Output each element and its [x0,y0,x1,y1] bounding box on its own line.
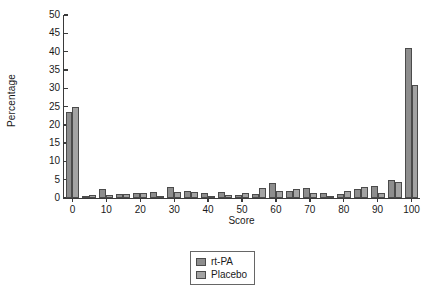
bar-chart-figure: Percentage 05101520253035404550 01020304… [0,0,447,290]
y-axis-tick-label: 10 [49,156,64,166]
x-axis-tick-mark [343,198,344,202]
bar-placebo-45 [225,195,232,198]
y-axis-title: Percentage [4,0,20,200]
legend-item-rt-pa: rt-PA [196,255,247,268]
bar-rt-pa-5 [82,196,89,198]
y-axis-tick-label: 40 [49,47,64,57]
x-axis-tick-mark [72,198,73,202]
bar-placebo-65 [293,189,300,198]
y-axis-title-text: Percentage [7,73,18,126]
y-axis-tick-label: 20 [49,120,64,130]
x-axis-tick-mark [241,198,242,202]
bar-rt-pa-85 [354,189,361,198]
x-axis-tick-label: 90 [372,205,383,215]
y-axis-tick-mark [64,51,68,52]
bar-rt-pa-65 [286,191,293,198]
bar-rt-pa-90 [371,186,378,198]
x-axis-tick-mark [106,198,107,202]
y-axis-tick-mark [64,88,68,89]
bar-placebo-90 [378,193,385,198]
bar-rt-pa-75 [320,193,327,198]
bar-rt-pa-30 [167,187,174,198]
bar-rt-pa-100 [405,48,412,198]
plot-area: 05101520253035404550 0102030405060708090… [63,15,420,199]
y-axis-tick-label: 30 [49,83,64,93]
x-axis-tick-label: 40 [203,205,214,215]
y-axis-tick-mark [64,106,68,107]
bar-rt-pa-20 [133,193,140,198]
bar-placebo-10 [106,195,113,198]
bar-placebo-5 [89,195,96,198]
legend-swatch-icon [196,258,206,266]
legend-swatch-icon [196,271,206,279]
x-axis-tick-mark [140,198,141,202]
x-axis-tick-mark [377,198,378,202]
bar-placebo-50 [242,193,249,198]
y-axis-tick-label: 15 [49,138,64,148]
bar-rt-pa-0 [66,112,73,198]
bar-rt-pa-55 [252,194,259,198]
bar-placebo-15 [123,194,130,198]
x-axis-tick-mark [275,198,276,202]
bar-placebo-70 [310,193,317,198]
bar-rt-pa-40 [201,193,208,198]
bar-placebo-85 [361,187,368,198]
bar-placebo-35 [191,192,198,198]
bar-placebo-95 [395,182,402,198]
x-axis-tick-mark [174,198,175,202]
x-axis-tick-mark [309,198,310,202]
bar-placebo-40 [208,196,215,198]
x-axis-tick-label: 10 [101,205,112,215]
x-axis-tick-mark [411,198,412,202]
bar-rt-pa-80 [337,194,344,198]
y-axis-tick-label: 50 [49,10,64,20]
x-axis-tick-mark [207,198,208,202]
y-axis-tick-mark [64,14,68,15]
legend-item-label: Placebo [211,269,247,280]
x-axis-tick-label: 100 [403,205,420,215]
bar-rt-pa-15 [116,194,123,198]
bar-placebo-20 [140,193,147,198]
bar-placebo-75 [327,196,334,198]
x-axis-tick-label: 20 [135,205,146,215]
x-axis-tick-label: 30 [169,205,180,215]
bar-placebo-60 [276,191,283,198]
bar-rt-pa-35 [184,191,191,198]
y-axis-tick-label: 5 [54,175,64,185]
bar-rt-pa-95 [388,180,395,198]
x-axis-tick-label: 70 [304,205,315,215]
bar-rt-pa-70 [303,188,310,198]
y-axis-tick-mark [64,69,68,70]
y-axis-tick-label: 45 [49,28,64,38]
chart-legend: rt-PAPlacebo [190,251,255,285]
x-axis-tick-label: 0 [70,205,76,215]
bar-placebo-0 [72,107,79,199]
x-axis-title-text: Score [228,215,254,226]
bar-rt-pa-45 [218,192,225,198]
bar-rt-pa-50 [235,195,242,198]
bar-rt-pa-25 [150,192,157,198]
legend-item-placebo: Placebo [196,268,247,281]
legend-item-label: rt-PA [211,256,233,267]
y-axis-tick-label: 0 [54,193,64,203]
x-axis-title: Score [63,215,420,226]
bar-placebo-30 [174,192,181,198]
bar-rt-pa-10 [99,189,106,198]
x-axis-tick-label: 50 [236,205,247,215]
y-axis-tick-mark [64,33,68,34]
x-axis-tick-label: 80 [338,205,349,215]
bar-placebo-55 [259,188,266,198]
bar-placebo-25 [157,196,164,198]
bar-placebo-100 [412,85,419,198]
x-axis-tick-label: 60 [270,205,281,215]
bar-placebo-80 [344,191,351,198]
y-axis-tick-label: 25 [49,102,64,112]
y-axis-tick-label: 35 [49,65,64,75]
bar-rt-pa-60 [269,183,276,198]
